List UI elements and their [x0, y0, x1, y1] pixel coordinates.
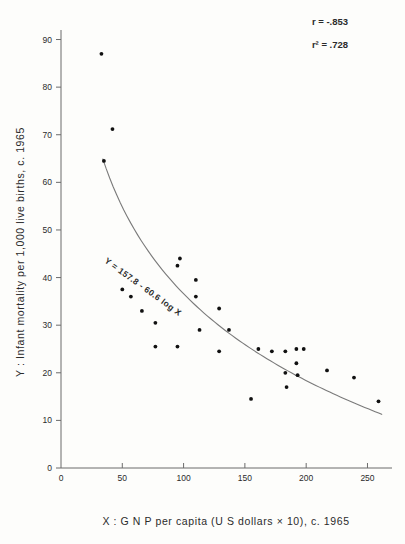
data-point [296, 373, 300, 377]
data-point [111, 127, 115, 131]
data-points [100, 52, 381, 403]
data-point [302, 347, 306, 351]
x-tick-label: 50 [118, 473, 128, 483]
data-point [194, 295, 198, 299]
data-point [325, 369, 329, 373]
data-point [294, 347, 298, 351]
data-point [176, 345, 180, 349]
y-tick-label: 60 [43, 177, 53, 187]
x-axis-title: X : G N P per capita (U S dollars × 10),… [102, 515, 349, 527]
y-tick-label: 30 [43, 320, 53, 330]
y-tick-label: 80 [43, 82, 53, 92]
y-tick-label: 0 [47, 463, 52, 473]
data-point [256, 347, 260, 351]
scatter-plot-figure: 0102030405060708090 050100150200250 r = … [0, 0, 405, 544]
y-tick-label: 10 [43, 415, 53, 425]
x-tick-label: 150 [238, 473, 252, 483]
data-point [153, 321, 157, 325]
data-point [227, 328, 231, 332]
y-tick-label: 70 [43, 130, 53, 140]
x-axis-ticks: 050100150200250 [59, 463, 375, 483]
data-point [270, 349, 274, 353]
data-point [153, 345, 157, 349]
r-squared-annotation: r² = .728 [312, 39, 348, 50]
data-point [217, 307, 221, 311]
data-point [129, 295, 133, 299]
data-point [120, 288, 124, 292]
data-point [176, 264, 180, 268]
data-point [194, 278, 198, 282]
x-tick-label: 250 [360, 473, 374, 483]
data-point [377, 399, 381, 403]
data-point [352, 376, 356, 380]
y-tick-label: 20 [43, 368, 53, 378]
y-axis-ticks: 0102030405060708090 [43, 35, 61, 473]
data-point [285, 385, 289, 389]
data-point [249, 397, 253, 401]
plot-area: 0102030405060708090 050100150200250 [43, 30, 392, 483]
data-point [102, 159, 106, 163]
y-tick-label: 40 [43, 273, 53, 283]
x-tick-label: 200 [299, 473, 313, 483]
x-tick-label: 100 [176, 473, 190, 483]
data-point [100, 52, 104, 56]
correlation-annotation: r = -.853 [312, 16, 348, 27]
y-tick-label: 50 [43, 225, 53, 235]
data-point [140, 309, 144, 313]
y-tick-label: 90 [43, 35, 53, 45]
y-axis-title: Y : Infant mortality per 1,000 live birt… [14, 127, 26, 377]
data-point [178, 257, 182, 261]
data-point [198, 328, 202, 332]
data-point [294, 361, 298, 365]
data-point [217, 349, 221, 353]
data-point [283, 349, 287, 353]
regression-equation-label: Y = 157.8 - 60.6 log X [103, 256, 184, 318]
data-point [283, 371, 287, 375]
x-tick-label: 0 [59, 473, 64, 483]
